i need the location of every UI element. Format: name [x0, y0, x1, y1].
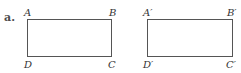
rectangle-shape-prime [147, 19, 233, 57]
vertex-label-d: D [24, 60, 32, 70]
vertex-label-c-prime: C′ [226, 60, 236, 70]
vertex-label-b-prime: B′ [227, 8, 237, 18]
rectangle-shape [27, 19, 112, 57]
vertex-label-d-prime: D′ [143, 60, 153, 70]
part-label: a. [4, 12, 15, 23]
vertex-label-b: B [109, 8, 116, 18]
vertex-label-a: A [24, 8, 31, 18]
vertex-label-a-prime: A′ [143, 8, 153, 18]
vertex-label-c: C [108, 60, 116, 70]
